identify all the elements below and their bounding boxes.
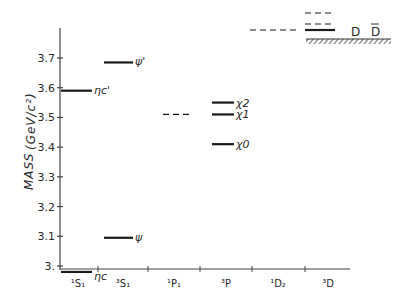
threshold-label-dbar: D: [371, 25, 380, 39]
diagram-canvas: 3.3.13.23.33.43.53.63.7 ¹S₁³S₁¹P₁³P¹D₂³D…: [0, 0, 407, 297]
state-label: χ1: [235, 108, 250, 121]
category-label-3S1: ³S₁: [116, 278, 130, 289]
state-label: ηc': [94, 84, 110, 97]
state-label: χ0: [235, 138, 250, 151]
y-axis-label-mass: MASS: [22, 153, 36, 190]
y-ticks: 3.3.13.23.33.43.53.63.7: [38, 52, 64, 273]
category-label-1S1: ¹S₁: [71, 278, 85, 289]
dd-threshold: D D: [306, 24, 391, 44]
state-label: ψ: [135, 231, 143, 244]
y-axis-unit: (GeV/c²): [24, 92, 38, 150]
y-axis-label-unit: (GeV/c²): [24, 92, 38, 150]
threshold-hatching: [306, 39, 391, 44]
level-3S1-ψ: ψ: [104, 231, 143, 244]
y-tick-label: 3.5: [38, 111, 56, 124]
category-label-3D: ³D: [322, 278, 334, 289]
state-label: ψ': [135, 55, 145, 68]
y-tick-label: 3.6: [38, 82, 56, 95]
state-label: ηc: [94, 270, 107, 283]
y-tick-label: 3.2: [38, 201, 56, 214]
category-label-1P1: ¹P₁: [167, 278, 181, 289]
category-label-1D2: ¹D₂: [270, 278, 286, 289]
level-3P-χ0: χ0: [212, 138, 250, 151]
threshold-label-d: D: [351, 25, 360, 39]
level-3S1-ψ': ψ': [104, 55, 145, 68]
y-tick-label: 3.1: [38, 230, 56, 243]
y-tick-label: 3.: [45, 260, 56, 273]
charmonium-level-diagram: 3.3.13.23.33.43.53.63.7 ¹S₁³S₁¹P₁³P¹D₂³D…: [0, 0, 407, 297]
y-tick-label: 3.3: [38, 171, 56, 184]
level-3P-χ1: χ1: [212, 108, 250, 121]
y-axis-title: MASS: [22, 153, 36, 190]
level-1S1-ηc': ηc': [61, 84, 110, 97]
energy-levels: ηcηc'ψψ'χ2χ1χ0: [61, 13, 335, 283]
category-label-3P: ³P: [221, 278, 231, 289]
y-tick-label: 3.7: [38, 52, 56, 65]
y-tick-label: 3.4: [38, 141, 56, 154]
